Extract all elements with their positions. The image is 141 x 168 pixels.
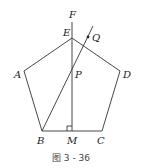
label-b: B — [36, 135, 44, 146]
label-f: F — [68, 9, 77, 20]
label-p: P — [74, 69, 82, 80]
label-a: A — [13, 69, 21, 80]
label-e: E — [62, 27, 71, 38]
figure-caption: 图 3 - 36 — [52, 153, 90, 163]
right-angle-marker — [67, 126, 72, 131]
label-m: M — [66, 135, 78, 146]
point-q-dot — [87, 36, 90, 39]
label-d: D — [122, 69, 131, 80]
ray-bq — [42, 26, 93, 131]
label-c: C — [97, 135, 105, 146]
label-q: Q — [92, 32, 100, 43]
pentagon-diagram: F E Q A P D B M C 图 3 - 36 — [0, 0, 141, 168]
